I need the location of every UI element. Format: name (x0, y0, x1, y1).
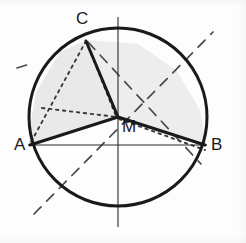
vertex-label-c: C (76, 10, 88, 27)
dashed-stub-upper-left (17, 63, 33, 68)
vertex-label-b: B (211, 136, 222, 153)
vertex-label-m: M (122, 118, 136, 135)
geometry-figure: A B C M (0, 0, 246, 243)
vertex-label-a: A (14, 136, 25, 153)
